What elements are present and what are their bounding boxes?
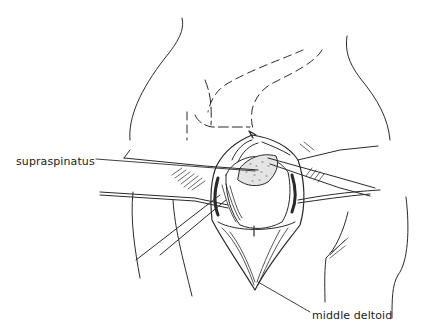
supraspinatus-leader: [96, 159, 255, 171]
hatching-left: [172, 168, 205, 190]
supraspinatus-label: supraspinatus: [16, 155, 95, 168]
middle-deltoid-label: middle deltoid: [312, 309, 392, 322]
shoulder-surgery-illustration: [0, 0, 424, 336]
illustration-drawing: [0, 0, 424, 336]
deltoid-leader: [258, 282, 310, 312]
